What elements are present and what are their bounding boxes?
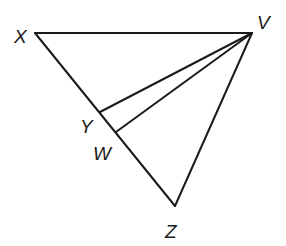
segment-vz: [175, 33, 252, 206]
label-z: Z: [164, 221, 178, 242]
segment-vy: [100, 33, 252, 112]
label-x: X: [13, 26, 28, 47]
segments-group: [35, 33, 252, 206]
label-y: Y: [80, 116, 94, 137]
segment-vw: [116, 33, 252, 132]
label-v: V: [257, 12, 272, 33]
segment-xz: [35, 33, 175, 206]
triangle-diagram: X V Z Y W: [0, 0, 286, 246]
label-w: W: [93, 143, 113, 164]
